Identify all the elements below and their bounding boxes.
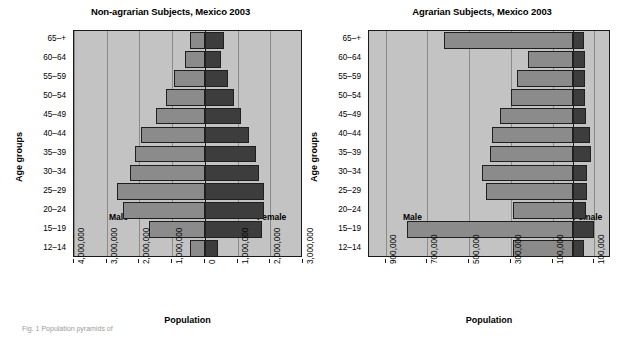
bar-female	[573, 89, 584, 106]
bar-male	[174, 70, 205, 87]
bar-female	[205, 127, 249, 144]
bar-female	[205, 202, 264, 219]
bar-female	[573, 202, 586, 219]
x-axis-tickmark	[269, 259, 270, 263]
bar-female	[573, 221, 594, 238]
y-axis-tick-label: 12–14	[338, 244, 361, 252]
bar-female	[205, 146, 256, 163]
x-axis-tickmark	[106, 259, 107, 263]
bar-female	[205, 89, 234, 106]
x-axis-tickmark	[237, 259, 238, 263]
bar-male	[486, 183, 574, 200]
chart-title-agrarian: Agrarian Subjects, Mexico 2003	[315, 6, 629, 17]
bar-female	[573, 127, 590, 144]
x-axis-tick-label: 3,000,000	[306, 228, 315, 264]
y-axis-tick-label: 55–59	[43, 73, 66, 81]
y-axis-tick-label: 30–34	[43, 168, 66, 176]
y-axis-tick-label: 50–54	[43, 92, 66, 100]
y-axis-tick-label: 20–24	[338, 206, 361, 214]
x-axis-tickmark	[552, 259, 553, 263]
bar-male	[117, 183, 205, 200]
gridline	[74, 31, 75, 256]
bar-male	[141, 127, 205, 144]
x-axis-tick-label: 0	[208, 259, 217, 264]
bar-female	[205, 221, 262, 238]
bar-male	[123, 202, 205, 219]
x-axis-tickmark	[426, 259, 427, 263]
bar-female	[573, 183, 587, 200]
bar-female	[573, 240, 583, 257]
chart-panel-non-agrarian: Non-agrarian Subjects, Mexico 2003 Age g…	[0, 0, 315, 340]
y-axis-tick-label: 65–+	[343, 35, 361, 43]
y-axis-tick-label: 20–24	[43, 206, 66, 214]
bar-female	[205, 51, 221, 68]
gridline	[386, 31, 387, 256]
x-axis-tickmark	[593, 259, 594, 263]
figure-population-pyramids: Non-agrarian Subjects, Mexico 2003 Age g…	[0, 0, 629, 340]
bar-female	[573, 32, 583, 49]
bar-female	[205, 70, 228, 87]
bar-male	[517, 70, 573, 87]
bar-male	[482, 165, 574, 182]
x-axis-title-agrarian: Population	[368, 315, 610, 325]
x-axis-tick-label: 300,000	[514, 234, 523, 264]
x-axis-tickmark	[204, 259, 205, 263]
bar-male	[500, 108, 573, 125]
bar-male	[528, 51, 574, 68]
y-axis-tick-label: 30–34	[338, 168, 361, 176]
x-axis-tickmark	[385, 259, 386, 263]
y-axis-tick-label: 15–19	[43, 225, 66, 233]
y-axis-tick-label: 50–54	[338, 92, 361, 100]
bar-female	[573, 108, 586, 125]
y-axis-tick-label: 12–14	[43, 244, 66, 252]
y-axis-tick-label: 15–19	[338, 225, 361, 233]
y-axis-tick-label: 35–39	[338, 149, 361, 157]
y-axis-tick-label: 45–49	[43, 111, 66, 119]
bar-male	[513, 202, 574, 219]
bar-male	[130, 165, 205, 182]
y-axis-tick-label: 25–29	[43, 187, 66, 195]
y-axis-tick-label: 40–44	[338, 130, 361, 138]
gridline	[107, 31, 108, 256]
x-axis-tick-label: 900,000	[389, 234, 398, 264]
x-axis-title-non-agrarian: Population	[73, 315, 302, 325]
x-axis-tickmark	[468, 259, 469, 263]
bar-male	[156, 108, 205, 125]
x-axis-tick-label: 1,000,000	[175, 228, 184, 264]
x-axis-tick-label: 2,000,000	[273, 228, 282, 264]
x-axis-tick-label: 4,000,000	[77, 228, 86, 264]
bar-female	[573, 146, 591, 163]
bar-male	[185, 51, 205, 68]
bar-male	[492, 127, 573, 144]
gridline	[139, 31, 140, 256]
bar-female	[205, 240, 218, 257]
chart-panel-agrarian: Agrarian Subjects, Mexico 2003 Age group…	[315, 0, 629, 340]
bar-male	[190, 240, 205, 257]
bar-female	[573, 51, 584, 68]
x-axis-tickmark	[138, 259, 139, 263]
figure-caption: Fig. 1 Population pyramids of	[22, 325, 442, 337]
bar-female	[205, 108, 241, 125]
y-axis-tick-label: 55–59	[338, 73, 361, 81]
y-axis-labels-agrarian: 12–1415–1920–2425–2930–3435–3940–4445–49…	[315, 30, 365, 257]
y-axis-tick-label: 65–+	[48, 35, 66, 43]
bar-female	[205, 165, 259, 182]
plot-area-agrarian: Male Female	[368, 30, 610, 257]
bar-female	[573, 165, 587, 182]
x-axis-tickmark	[171, 259, 172, 263]
x-axis-tick-label: 100,000	[597, 234, 606, 264]
bar-male	[190, 32, 205, 49]
y-axis-tick-label: 45–49	[338, 111, 361, 119]
gridline	[270, 31, 271, 256]
x-axis-tick-label: 2,000,000	[142, 228, 151, 264]
y-axis-tick-label: 60–64	[43, 54, 66, 62]
y-axis-tick-label: 60–64	[338, 54, 361, 62]
bar-male	[490, 146, 573, 163]
x-axis-tickmark	[73, 259, 74, 263]
y-axis-tick-label: 40–44	[43, 130, 66, 138]
y-axis-tick-label: 35–39	[43, 149, 66, 157]
y-axis-labels-non-agrarian: 12–1415–1920–2425–2930–3435–3940–4445–49…	[0, 30, 70, 257]
bar-female	[205, 32, 225, 49]
bar-female	[573, 70, 584, 87]
x-axis-tick-label: 100,000	[556, 234, 565, 264]
